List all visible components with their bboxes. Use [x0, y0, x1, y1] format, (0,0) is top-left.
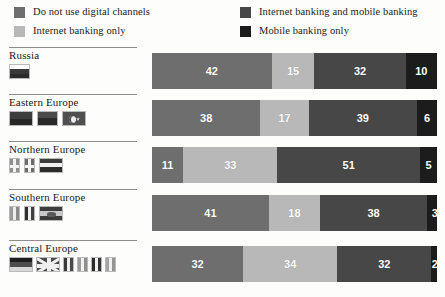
bar-segment-internet-banking-only[interactable]: 33 [183, 147, 277, 183]
bar-segment-internet-and-mobile-banking[interactable]: 32 [337, 246, 431, 282]
bar-segment-internet-banking-only[interactable]: 34 [243, 246, 337, 282]
row-flags [9, 64, 30, 79]
row-divider [9, 94, 137, 95]
segment-value: 41 [204, 207, 216, 219]
bar-segment-internet-and-mobile-banking[interactable]: 38 [320, 195, 427, 231]
bar-segment-internet-banking-only[interactable]: 17 [260, 100, 308, 136]
uk-flag-icon [36, 257, 60, 272]
stacked-bar: 42 15 32 10 [152, 53, 437, 89]
legend-item-label: Do not use digital channels [33, 6, 150, 18]
row-label: Eastern Europe [9, 96, 79, 109]
segment-value: 10 [415, 65, 427, 77]
row-flags [9, 206, 63, 221]
chart-legend: Do not use digital channels Internet ban… [0, 0, 445, 46]
segment-value: 34 [284, 258, 296, 270]
row-label: Central Europe [9, 242, 78, 255]
legend-item-label: Mobile banking only [259, 25, 349, 37]
bar-segment-internet-banking-only[interactable]: 15 [272, 53, 315, 89]
segment-value: 32 [191, 258, 203, 270]
segment-value: 39 [357, 112, 369, 124]
striped-flag-icon [39, 158, 63, 173]
stacked-bar: 41 18 38 3 [152, 195, 437, 231]
stacked-bar: 32 34 32 2 [152, 246, 437, 282]
bar-segment-mobile-banking-only[interactable]: 10 [406, 53, 437, 89]
bar-segment-internet-and-mobile-banking[interactable]: 39 [309, 100, 417, 136]
legend-swatch-icon [240, 7, 251, 18]
stacked-bar: 11 33 51 5 [152, 147, 437, 183]
russia-flag-icon [9, 64, 30, 79]
row-flags [9, 158, 63, 173]
legend-swatch-icon [14, 26, 25, 37]
row-label: Southern Europe [9, 191, 85, 204]
segment-value: 11 [162, 159, 174, 171]
stacked-bar-chart: Do not use digital channels Internet ban… [0, 0, 445, 297]
bar-segment-internet-banking-only[interactable]: 18 [269, 195, 320, 231]
row-divider [9, 240, 137, 241]
chart-row-northern-europe: Northern Europe 11 33 51 5 [0, 141, 445, 188]
segment-value: 51 [343, 159, 355, 171]
vertical-stripe-flag-icon-1 [9, 206, 20, 221]
bar-segment-mobile-banking-only[interactable]: 5 [420, 147, 437, 183]
row-divider [9, 141, 137, 142]
segment-value: 5 [425, 159, 431, 171]
chart-row-russia: Russia 42 15 32 10 [0, 47, 445, 94]
bar-segment-do-not-use-digital-channels[interactable]: 41 [152, 195, 269, 231]
stacked-bar: 38 17 39 6 [152, 100, 437, 136]
bar-segment-do-not-use-digital-channels[interactable]: 32 [152, 246, 243, 282]
segment-value: 42 [206, 65, 218, 77]
segment-value: 17 [278, 112, 290, 124]
segment-value: 38 [200, 112, 212, 124]
flag-icon-2 [37, 111, 58, 126]
segment-value: 3 [432, 207, 438, 219]
segment-value: 38 [367, 207, 379, 219]
vertical-stripe-flag-icon-5 [91, 257, 102, 272]
legend-item-internet-banking-only[interactable]: Internet banking only [14, 25, 126, 37]
flag-icon-1 [9, 111, 33, 126]
legend-swatch-icon [240, 26, 251, 37]
row-flags [9, 257, 116, 272]
row-label: Northern Europe [9, 143, 85, 156]
vertical-stripe-flag-icon-4 [77, 257, 88, 272]
bar-segment-internet-and-mobile-banking[interactable]: 51 [277, 147, 420, 183]
row-divider [9, 189, 137, 190]
segment-value: 2 [432, 258, 438, 270]
legend-item-do-not-use-digital-channels[interactable]: Do not use digital channels [14, 6, 150, 18]
chart-row-eastern-europe: Eastern Europe 38 17 39 6 [0, 94, 445, 141]
nordic-cross-flag-icon-1 [9, 158, 20, 173]
segment-value: 32 [378, 258, 390, 270]
spain-flag-icon [39, 206, 63, 221]
row-flags [9, 111, 86, 126]
bar-segment-mobile-banking-only[interactable]: 3 [427, 195, 437, 231]
vertical-stripe-flag-icon-2 [24, 206, 35, 221]
segment-value: 33 [224, 159, 236, 171]
bar-segment-mobile-banking-only[interactable]: 2 [431, 246, 437, 282]
segment-value: 32 [354, 65, 366, 77]
chart-row-central-europe: Central Europe [0, 240, 445, 287]
germany-flag-icon [9, 257, 33, 272]
bar-segment-mobile-banking-only[interactable]: 6 [417, 100, 437, 136]
segment-value: 18 [288, 207, 300, 219]
segment-value: 15 [287, 65, 299, 77]
legend-item-label: Internet banking only [33, 25, 126, 37]
turkey-flag-icon [62, 111, 86, 126]
vertical-stripe-flag-icon-3 [63, 257, 74, 272]
bar-segment-do-not-use-digital-channels[interactable]: 42 [152, 53, 272, 89]
segment-value: 6 [424, 112, 430, 124]
chart-row-southern-europe: Southern Europe 41 18 38 3 [0, 189, 445, 236]
legend-swatch-icon [14, 7, 25, 18]
bar-segment-do-not-use-digital-channels[interactable]: 38 [152, 100, 260, 136]
legend-item-mobile-banking-only[interactable]: Mobile banking only [240, 25, 349, 37]
row-divider [9, 47, 137, 48]
row-label: Russia [9, 49, 39, 62]
bar-segment-internet-and-mobile-banking[interactable]: 32 [314, 53, 405, 89]
legend-item-internet-and-mobile-banking[interactable]: Internet banking and mobile banking [240, 6, 418, 18]
legend-item-label: Internet banking and mobile banking [259, 6, 418, 18]
bar-segment-do-not-use-digital-channels[interactable]: 11 [152, 147, 183, 183]
vertical-stripe-flag-icon-6 [105, 257, 116, 272]
nordic-cross-flag-icon-2 [24, 158, 35, 173]
